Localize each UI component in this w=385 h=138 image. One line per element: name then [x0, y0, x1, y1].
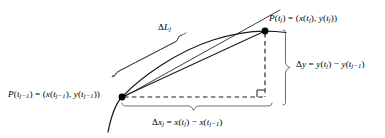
- chord-line: [122, 31, 265, 97]
- upper-point-dot: [262, 28, 269, 35]
- tangent-ray: [120, 10, 280, 99]
- delta-x-brace: [122, 103, 272, 111]
- delta-y-brace: [283, 30, 290, 105]
- delta-l-brace-tip: [182, 33, 187, 35]
- upper-point-label: P(tj) = (x(tj), y(tj)): [269, 14, 337, 24]
- delta-x-label: Δxj = x(tj) − x(tj−1): [152, 118, 223, 128]
- delta-y-label: Δy = y(tj) − y(tj−1): [296, 60, 365, 70]
- delta-l-label: ΔLj: [158, 23, 171, 33]
- arc-length-diagram: P(tj) = (x(tj), y(tj)) P(tj−1) = (x(tj−1…: [0, 0, 385, 138]
- right-angle-marker: [257, 90, 265, 97]
- lower-point-label: P(tj−1) = (x(tj−1), y(tj−1)): [8, 90, 100, 100]
- delta-l-brace: [112, 35, 181, 76]
- lower-point-dot: [119, 94, 126, 101]
